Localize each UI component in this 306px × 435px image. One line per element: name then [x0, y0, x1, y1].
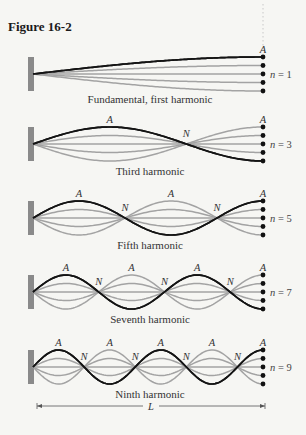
antinode-label: A — [167, 188, 175, 199]
free-end-ring-dot — [261, 281, 266, 286]
free-end-ring-dot — [261, 382, 266, 387]
harmonic-caption: Fifth harmonic — [117, 239, 183, 251]
arrowhead-left-icon — [37, 404, 42, 408]
harmonic-panels: An = 1Fundamental, first harmonicAANn = … — [28, 44, 292, 400]
length-marker: L — [37, 401, 265, 412]
free-end-ring-dot — [261, 55, 266, 60]
free-end-ring-dot — [261, 290, 266, 295]
harmonic-number-label: n = 9 — [270, 362, 292, 373]
free-end-ring-dot — [261, 63, 266, 68]
free-end-ring-dot — [261, 142, 266, 147]
harmonic-panel-n7: AAAANNNn = 7Seventh harmonic — [28, 262, 292, 325]
free-end-ring-dot — [261, 298, 266, 303]
node-label: N — [226, 276, 235, 287]
antinode-label: A — [127, 262, 135, 273]
node-label: N — [233, 351, 242, 362]
free-end-ring-dot — [261, 233, 266, 238]
free-end-ring-dot — [261, 216, 266, 221]
standing-wave-diagram: An = 1Fundamental, first harmonicAANn = … — [0, 0, 306, 435]
antinode-label: A — [259, 114, 267, 125]
free-end-ring-dot — [261, 207, 266, 212]
free-end-ring-dot — [261, 224, 266, 229]
harmonic-panel-n3: AANn = 3Third harmonic — [28, 114, 292, 177]
free-end-ring-dot — [261, 80, 266, 85]
free-end-ring-dot — [261, 89, 266, 94]
free-end-ring-dot — [261, 373, 266, 378]
node-label: N — [182, 351, 191, 362]
free-end-ring-dot — [261, 273, 266, 278]
harmonic-caption: Seventh harmonic — [110, 313, 190, 325]
harmonic-panel-n5: AAANNn = 5Fifth harmonic — [28, 188, 292, 251]
harmonic-number-label: n = 7 — [270, 287, 292, 298]
free-end-ring-dot — [261, 72, 266, 77]
harmonic-caption: Fundamental, first harmonic — [88, 93, 213, 105]
node-label: N — [212, 202, 221, 213]
antinode-label: A — [259, 337, 267, 348]
free-end-ring-dot — [261, 307, 266, 312]
node-label: N — [160, 276, 169, 287]
antinode-label: A — [259, 188, 267, 199]
free-end-ring-dot — [261, 125, 266, 130]
antinode-label: A — [208, 337, 216, 348]
harmonic-number-label: n = 3 — [270, 139, 292, 150]
harmonic-number-label: n = 1 — [270, 69, 292, 80]
free-end-ring-dot — [261, 365, 266, 370]
antinode-label: A — [157, 337, 165, 348]
node-label: N — [94, 276, 103, 287]
antinode-label: A — [105, 337, 113, 348]
harmonic-panel-n9: AAAAANNNNn = 9Ninth harmonic — [28, 337, 292, 400]
harmonic-caption: Third harmonic — [116, 165, 185, 177]
node-label: N — [131, 351, 140, 362]
arrowhead-right-icon — [260, 404, 265, 408]
node-label: N — [80, 351, 89, 362]
harmonic-number-label: n = 5 — [270, 213, 292, 224]
free-end-ring-dot — [261, 356, 266, 361]
antinode-label: A — [193, 262, 201, 273]
antinode-label: A — [259, 44, 267, 55]
antinode-label: A — [62, 262, 70, 273]
free-end-ring-dot — [261, 159, 266, 164]
antinode-label: A — [75, 188, 83, 199]
free-end-ring-dot — [261, 133, 266, 138]
node-label: N — [182, 128, 191, 139]
antinode-label: A — [54, 337, 62, 348]
free-end-ring-dot — [261, 199, 266, 204]
length-label: L — [147, 401, 154, 412]
harmonic-panel-n1: An = 1Fundamental, first harmonic — [28, 44, 292, 105]
free-end-ring-dot — [261, 150, 266, 155]
free-end-ring-dot — [261, 348, 266, 353]
harmonic-caption: Ninth harmonic — [115, 388, 184, 400]
antinode-label: A — [105, 114, 113, 125]
antinode-label: A — [259, 262, 267, 273]
node-label: N — [120, 202, 129, 213]
